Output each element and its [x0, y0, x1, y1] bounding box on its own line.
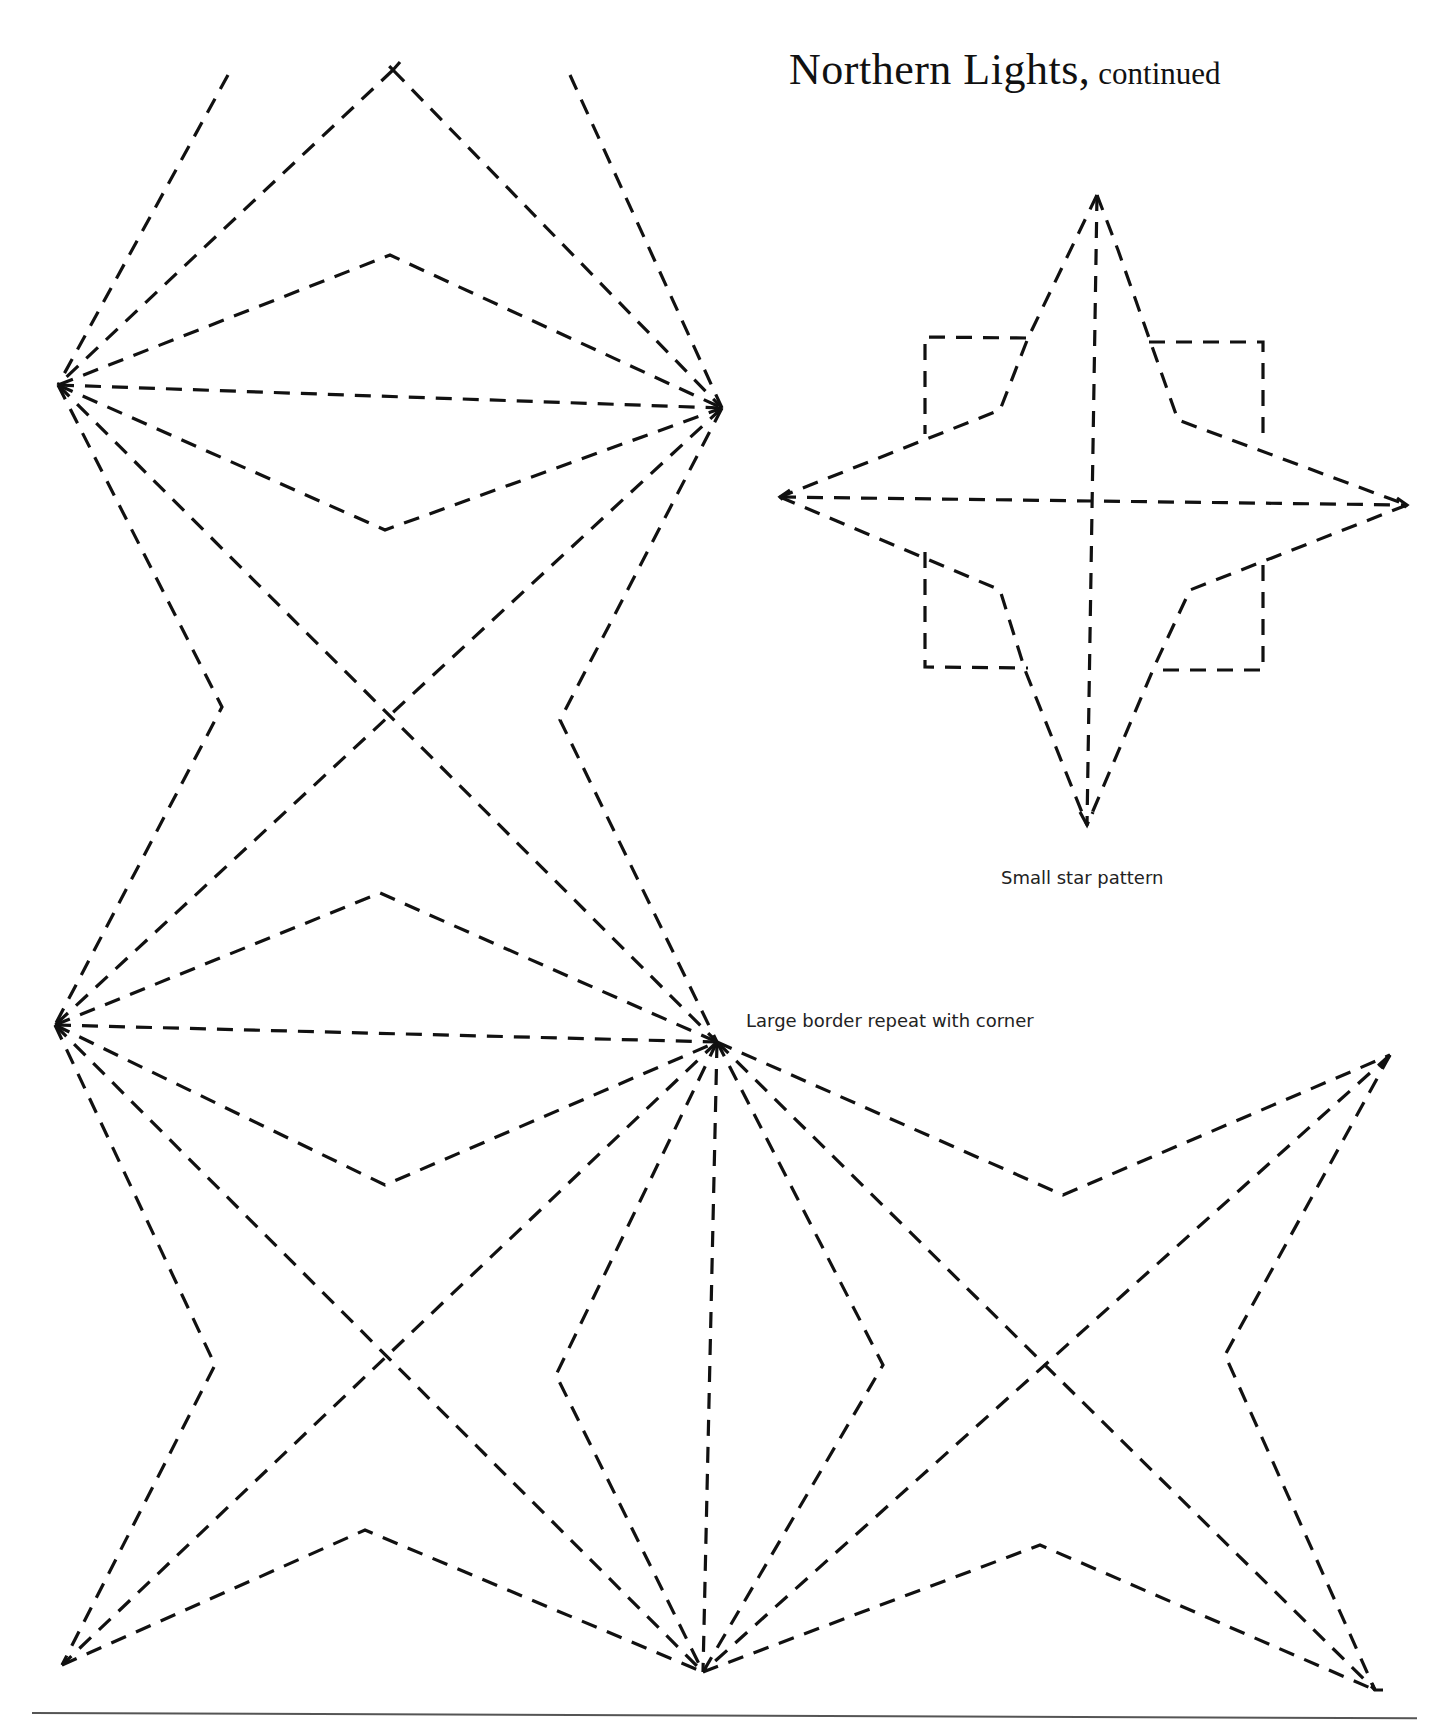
dashed-stitch-line [58, 70, 393, 385]
dashed-stitch-line [925, 337, 1026, 434]
dashed-stitch-line [62, 1042, 717, 1665]
dashed-stitch-line [58, 385, 722, 530]
dashed-stitch-line [55, 1025, 215, 1665]
dashed-stitch-line [780, 497, 1087, 825]
dashed-stitch-line [58, 75, 228, 385]
dashed-stitch-line [703, 1055, 1390, 1672]
large-border-repeat-pattern [55, 62, 1390, 1690]
dashed-stitch-line [55, 385, 222, 1025]
dashed-stitch-line [385, 62, 400, 70]
dashed-stitch-line [1097, 195, 1407, 505]
dashed-stitch-line [1087, 195, 1097, 825]
small-star-caption: Small star pattern [1001, 867, 1163, 888]
dashed-stitch-line [62, 1530, 703, 1672]
dashed-stitch-line [1155, 565, 1263, 670]
dashed-stitch-line [55, 893, 717, 1042]
dashed-stitch-line [703, 1545, 1375, 1690]
dashed-stitch-line [703, 1042, 717, 1672]
dashed-stitch-line [703, 1042, 883, 1672]
dashed-stitch-line [556, 1042, 717, 1672]
dashed-stitch-line [1087, 505, 1407, 825]
dashed-stitch-line [55, 1025, 717, 1042]
large-border-caption: Large border repeat with corner [746, 1010, 1034, 1031]
dashed-stitch-line [570, 75, 722, 408]
pattern-artwork [0, 0, 1450, 1730]
dashed-stitch-line [58, 385, 722, 408]
small-star-pattern [780, 195, 1407, 825]
dashed-stitch-line [925, 552, 1028, 668]
dashed-stitch-line [780, 195, 1097, 497]
dashed-stitch-line [1149, 342, 1263, 444]
dashed-stitch-line [55, 1025, 717, 1185]
dashed-stitch-line [393, 70, 722, 408]
dashed-stitch-line [560, 408, 722, 1042]
dashed-stitch-line [55, 1025, 703, 1672]
dashed-stitch-line [58, 255, 722, 408]
dashed-stitch-line [1225, 1055, 1390, 1690]
dashed-stitch-line [58, 385, 717, 1042]
dashed-stitch-line [717, 1042, 1390, 1195]
